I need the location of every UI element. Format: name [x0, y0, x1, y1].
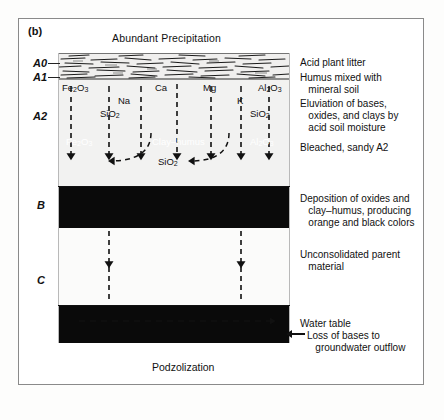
b-horizon-label-al2o3: Al2O3: [250, 136, 274, 147]
chem-label-sio2-right: SiO2: [250, 108, 270, 119]
chem-label-sio2-arc: SiO2: [158, 156, 178, 167]
b-horizon-top-line: [58, 186, 290, 187]
podzolization-figure: (b) Abundant Precipitation: [0, 0, 444, 420]
chem-label-mg: Mg: [203, 82, 216, 93]
water-table-pointer-icon: [291, 333, 305, 335]
chem-label-na: Na: [118, 95, 130, 106]
note-deposition: Deposition of oxides and clay–humus, pro…: [300, 193, 415, 228]
horizon-label-c: C: [37, 274, 45, 286]
b-horizon-label-clay-humus: Clay–humus: [152, 136, 205, 147]
horizon-label-a1: A1: [33, 71, 47, 83]
note-bleached-sandy-a2: Bleached, sandy A2: [300, 142, 388, 154]
chem-label-al2o3: Al2O3: [258, 82, 282, 93]
note-humus-mixed: Humus mixed with mineral soil: [300, 72, 382, 96]
water-table-line: [58, 305, 290, 306]
horizon-tick-a1: [48, 77, 60, 78]
note-water-table: Water table: [300, 318, 351, 330]
chem-label-fe2o3: Fe2O3: [62, 82, 88, 93]
soil-column: [58, 53, 290, 343]
figure-caption: Podzolization: [152, 362, 214, 374]
horizon-tick-a0: [48, 63, 60, 64]
chem-label-k: K: [237, 95, 243, 106]
note-loss-of-bases: Loss of bases to groundwater outflow: [307, 330, 405, 354]
horizon-label-a2: A2: [33, 110, 47, 122]
precipitation-title: Abundant Precipitation: [112, 33, 221, 45]
horizon-label-a0: A0: [33, 57, 47, 69]
note-eluviation: Eluviation of bases, oxides, and clays b…: [300, 98, 398, 133]
panel-letter: (b): [28, 26, 42, 38]
chem-label-ca: Ca: [155, 82, 167, 93]
leaching-arrows: [59, 53, 290, 343]
horizon-label-b: B: [37, 199, 45, 211]
b-horizon-label-fe2o3: Fe2O3: [66, 136, 92, 147]
note-parent-material: Unconsolidated parent material: [300, 249, 400, 273]
note-acid-plant-litter: Acid plant litter: [300, 57, 366, 69]
chem-label-sio2-left: SiO2: [100, 108, 120, 119]
